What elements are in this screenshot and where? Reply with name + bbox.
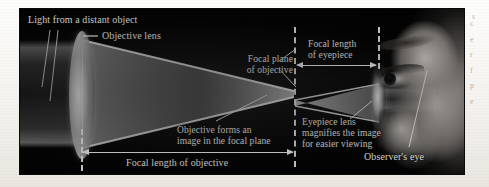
focal-length-objective-arrow [83,152,293,153]
label-objective-forms-image: Objective forms an image in the focal pl… [177,125,271,147]
label-objective-lens: Objective lens [102,30,161,41]
focal-length-eyepiece-arrow [297,65,376,66]
arrowhead-right [287,149,294,155]
margin-fragment: p [470,78,489,94]
figure-page: s c e r f p e [0,0,489,187]
label-light-from-distant-object: Light from a distant object [28,14,137,25]
margin-text-fragments: c e r f p e [470,16,489,126]
margin-fragment: e [470,94,489,110]
label-focal-length-of-eyepiece: Focal length of eyepiece [308,39,356,61]
focal-plane-line [294,27,296,167]
eyebrow [373,33,436,54]
label-observers-eye: Observer's eye [364,151,424,162]
margin-fragment: f [470,63,489,79]
label-focal-length-of-objective: Focal length of objective [126,157,228,168]
label-focal-plane-of-objective: Focal plane of objective [207,54,293,76]
margin-fragment: e [470,32,489,48]
pupil [384,73,396,85]
eyepiece-reference-line [378,27,380,69]
arrowhead-left [296,62,303,68]
arrowhead-right [370,62,377,68]
margin-fragment: r [470,47,489,63]
margin-fragment: c [470,16,489,32]
telescope-diagram-plate: Light from a distant object Objective le… [20,9,464,174]
label-eyepiece-magnifies-image: Eyepiece lens magnifies the image for ea… [302,117,381,150]
arrowhead-left [82,149,89,155]
